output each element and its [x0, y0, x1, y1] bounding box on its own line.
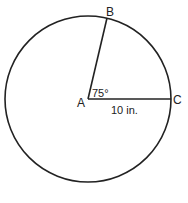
label-b: B [106, 5, 114, 19]
label-c: C [173, 93, 182, 107]
label-a: A [77, 96, 85, 110]
radius-label: 10 in. [111, 104, 138, 116]
circle-diagram: B A C 75° 10 in. [0, 0, 188, 203]
angle-label: 75° [92, 87, 109, 99]
